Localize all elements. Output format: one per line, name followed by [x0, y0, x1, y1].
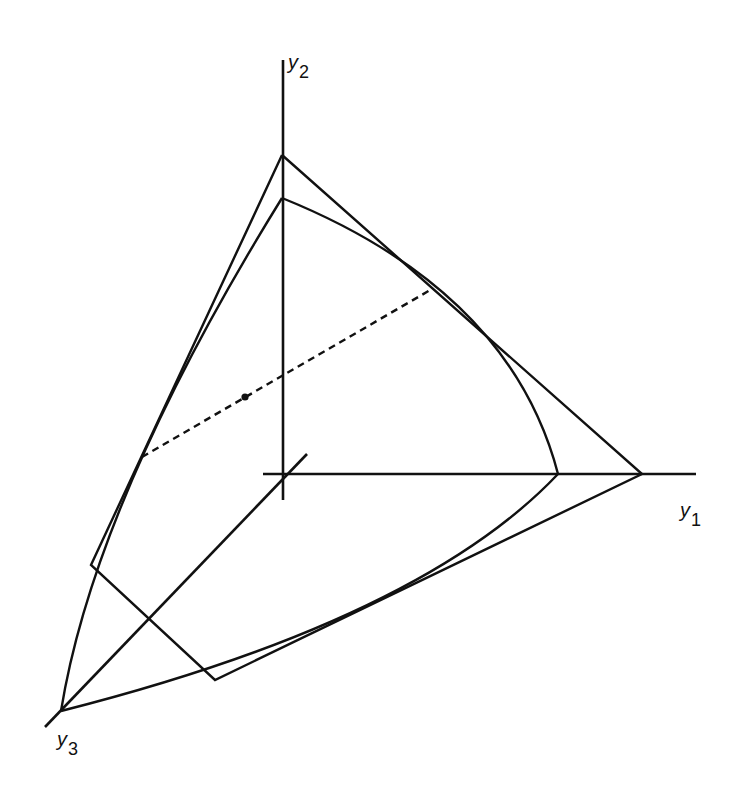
y1-axis-label: y1 — [680, 500, 701, 529]
curve-left — [61, 198, 282, 711]
y3-label-subscript: 3 — [68, 739, 78, 759]
curve-bottom — [61, 474, 558, 711]
y3-axis-label: y3 — [57, 729, 78, 758]
y1-label-subscript: 1 — [691, 510, 701, 530]
y2-axis-label: y2 — [288, 52, 309, 81]
y2-label-subscript: 2 — [299, 62, 309, 82]
y1-label-base: y — [680, 499, 690, 521]
center-point — [241, 393, 248, 400]
y3-label-base: y — [57, 728, 67, 750]
curve-right — [282, 198, 558, 474]
dashed-chord — [142, 289, 432, 457]
outer-polygon — [91, 155, 642, 680]
diagram-canvas — [0, 0, 735, 787]
y2-label-base: y — [288, 51, 298, 73]
y3-axis — [45, 454, 307, 727]
